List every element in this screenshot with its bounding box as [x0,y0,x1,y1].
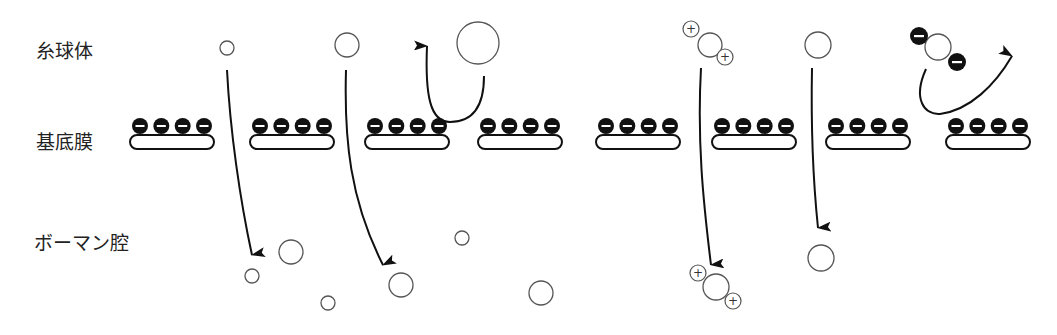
membrane-segment [712,118,796,149]
arrow-anion-reject [920,56,1012,114]
svg-text:+: + [720,50,730,64]
arrows [227,46,1012,265]
cationic-molecule-bottom: + + [690,265,741,309]
arrow-cation-pass [700,68,711,265]
arrow-medium-pass [346,70,383,265]
arrow-large-reject [427,46,484,122]
membrane-segment [596,118,680,149]
membrane-segment [478,118,562,149]
small-molecule [220,41,234,55]
bowman-molecules [245,231,834,310]
arrow-neutral-pass [812,68,818,228]
cationic-molecule-top: + + [683,21,733,65]
svg-text:+: + [693,266,703,280]
svg-text:+: + [686,22,696,36]
neutral-molecule [805,32,831,58]
anionic-molecule-top [910,27,966,71]
membrane-segment [250,118,334,149]
membrane-segment [365,118,449,149]
membrane-segment [130,118,214,149]
glomerulus-molecules [220,22,831,64]
svg-text:+: + [728,294,738,308]
membrane-segment [946,118,1030,149]
filtration-diagram: + + + + [0,0,1057,335]
membrane-segment [826,118,910,149]
arrow-small-pass [227,70,252,255]
basement-membrane [130,118,1030,149]
large-molecule [457,22,499,64]
medium-molecule [335,33,359,57]
